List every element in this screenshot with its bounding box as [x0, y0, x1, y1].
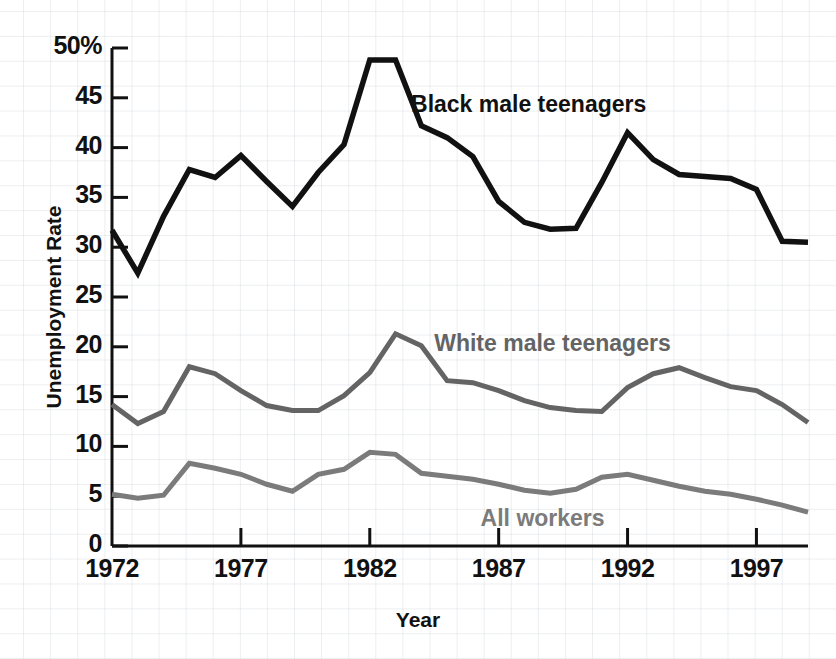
series-line-all-workers	[112, 452, 808, 512]
x-tick-label: 1997	[696, 554, 816, 583]
y-axis-title: Unemployment Rate	[42, 177, 66, 437]
y-axis-ticks	[112, 48, 128, 546]
y-tick-label: 45	[0, 81, 102, 110]
x-tick-label: 1987	[439, 554, 559, 583]
data-series-group	[112, 60, 808, 512]
series-label-white-male-teenagers: White male teenagers	[434, 330, 670, 357]
x-tick-label: 1992	[568, 554, 688, 583]
x-tick-label: 1977	[181, 554, 301, 583]
y-tick-label: 50%	[0, 31, 102, 60]
x-tick-label: 1972	[52, 554, 172, 583]
series-label-all-workers: All workers	[481, 505, 605, 532]
chart-container: 05101520253035404550% 197219771982198719…	[0, 0, 836, 659]
y-tick-label: 40	[0, 131, 102, 160]
y-tick-label: 5	[0, 479, 102, 508]
x-tick-label: 1982	[310, 554, 430, 583]
series-label-black-male-teenagers: Black male teenagers	[411, 91, 646, 118]
x-axis-title: Year	[0, 608, 836, 632]
axis-lines	[112, 48, 808, 546]
